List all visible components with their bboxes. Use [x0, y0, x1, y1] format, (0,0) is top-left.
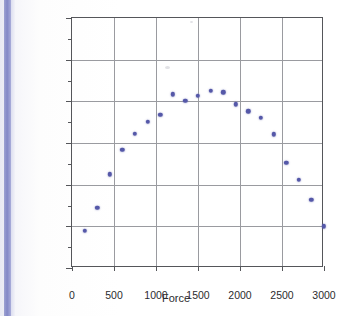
y-axis-minor-tick — [68, 81, 72, 82]
data-point — [246, 109, 250, 113]
data-point — [120, 148, 124, 152]
data-point — [297, 178, 301, 182]
y-axis-tick — [66, 18, 72, 19]
x-axis-tick — [240, 266, 241, 271]
gridline-horizontal — [72, 143, 322, 144]
y-axis-tick — [66, 60, 72, 61]
data-point — [95, 205, 99, 209]
data-point — [171, 92, 175, 96]
y-axis-minor-tick — [68, 39, 72, 40]
gridline-vertical — [156, 18, 157, 266]
x-axis-tick — [72, 266, 73, 271]
x-axis-tick — [156, 266, 157, 271]
x-axis-tick-label: 0 — [69, 290, 75, 301]
x-axis-tick-label: 2000 — [228, 290, 251, 301]
data-point — [158, 113, 162, 117]
data-point — [221, 90, 225, 94]
y-axis-tick — [66, 268, 72, 269]
data-point — [82, 228, 86, 232]
gridline-horizontal — [72, 185, 322, 186]
x-axis-tick — [114, 266, 115, 271]
data-point — [196, 93, 200, 97]
data-point — [234, 102, 238, 106]
gridline-vertical — [114, 18, 115, 266]
data-point — [322, 224, 326, 228]
data-point — [133, 132, 137, 136]
y-axis-tick — [66, 143, 72, 144]
x-axis-tick — [282, 266, 283, 271]
gridline-horizontal — [72, 60, 322, 61]
y-axis-tick — [66, 226, 72, 227]
gridline-horizontal — [72, 101, 322, 102]
plot-area: 0500100015002000250030000.0060.0040.0020… — [71, 17, 323, 267]
gridline-vertical — [240, 18, 241, 266]
data-point — [108, 172, 112, 176]
y-axis-minor-tick — [68, 122, 72, 123]
scan-artifact — [165, 66, 170, 69]
data-point — [309, 197, 313, 201]
y-axis-minor-tick — [68, 164, 72, 165]
y-axis-minor-tick — [68, 206, 72, 207]
data-point — [208, 88, 212, 92]
gridline-vertical — [282, 18, 283, 266]
residuals-vs-force-scatter-figure: Residuals Force 050010001500200025003000… — [0, 0, 354, 316]
data-point — [284, 161, 288, 165]
gridline-horizontal — [72, 226, 322, 227]
x-axis-tick-label: 1500 — [186, 290, 209, 301]
y-axis-tick — [66, 101, 72, 102]
gridline-vertical — [198, 18, 199, 266]
y-axis-tick — [66, 185, 72, 186]
x-axis-tick-label: 500 — [105, 290, 123, 301]
x-axis-tick — [324, 266, 325, 271]
data-point — [145, 119, 149, 123]
y-axis-minor-tick — [68, 247, 72, 248]
x-axis-tick-label: 2500 — [270, 290, 293, 301]
x-axis-tick — [198, 266, 199, 271]
data-point — [259, 116, 263, 120]
x-axis-tick-label: 3000 — [312, 290, 335, 301]
data-point — [271, 132, 275, 136]
scan-artifact — [190, 21, 193, 23]
x-axis-tick-label: 1000 — [144, 290, 167, 301]
